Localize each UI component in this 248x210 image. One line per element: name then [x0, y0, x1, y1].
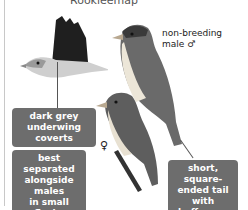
underwing-leader-line [57, 62, 58, 112]
page-border-line [4, 0, 5, 206]
male-caption: non-breeding male ♂ [162, 28, 222, 50]
flying-bird-illustration [12, 12, 108, 82]
label-line: alongside males [16, 175, 82, 197]
male-caption-line2: male ♂ [162, 39, 222, 50]
page-title: Rookleemap [70, 0, 138, 7]
female-symbol: ♀ [100, 140, 108, 151]
label-line: best separated [16, 153, 82, 175]
label-line: short, square- [172, 163, 234, 185]
label-tail: short, square- ended tail with buff rump [168, 160, 238, 210]
label-line: underwing coverts [16, 122, 92, 144]
label-line: buff rump [172, 207, 234, 210]
label-underwing-coverts: dark grey underwing coverts [12, 108, 96, 147]
label-line: in small flocks [16, 197, 82, 210]
label-line: dark grey [16, 111, 92, 122]
male-caption-line1: non-breeding [162, 28, 222, 39]
label-flocks: best separated alongside males in small … [12, 150, 86, 210]
label-line: ended tail with [172, 185, 234, 207]
